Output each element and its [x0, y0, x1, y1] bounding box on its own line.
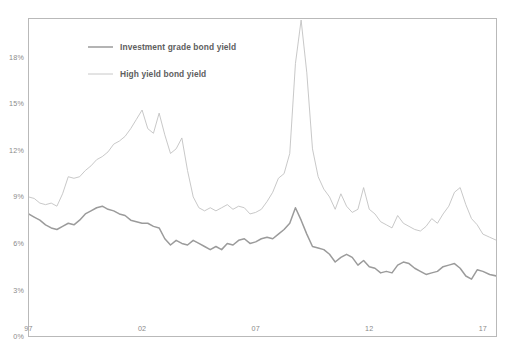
y-tick-label: 6% — [13, 239, 24, 248]
legend-label: High yield bond yield — [120, 69, 206, 79]
legend-label: Investment grade bond yield — [120, 42, 236, 52]
chart-background — [0, 0, 522, 356]
chart-canvas: 0%3%6%9%12%15%18% 9702071217 Investment … — [0, 0, 522, 356]
x-tick-label: 97 — [24, 324, 32, 333]
bond-yield-chart: 0%3%6%9%12%15%18% 9702071217 Investment … — [0, 0, 522, 356]
y-tick-label: 0% — [13, 332, 24, 341]
y-tick-label: 9% — [13, 192, 24, 201]
y-tick-label: 18% — [9, 53, 24, 62]
y-tick-label: 12% — [9, 146, 24, 155]
x-tick-label: 07 — [251, 324, 259, 333]
x-tick-label: 12 — [365, 324, 373, 333]
x-tick-label: 02 — [138, 324, 146, 333]
y-tick-label: 3% — [13, 286, 24, 295]
y-tick-label: 15% — [9, 99, 24, 108]
x-tick-label: 17 — [479, 324, 487, 333]
